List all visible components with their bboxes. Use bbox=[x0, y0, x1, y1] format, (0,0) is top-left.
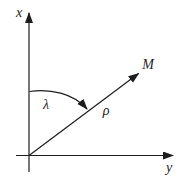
rho-radius-label: ρ bbox=[102, 103, 110, 118]
angle-arc-arrow bbox=[30, 91, 88, 109]
x-axis-label: x bbox=[15, 5, 23, 20]
point-m-label: M bbox=[141, 57, 155, 72]
diagram-canvas: x y M λ ρ bbox=[0, 0, 183, 180]
vector-om-line bbox=[29, 74, 139, 156]
lambda-angle-label: λ bbox=[42, 97, 49, 112]
coordinate-diagram: x y M λ ρ bbox=[0, 0, 183, 180]
y-axis-label: y bbox=[164, 160, 173, 175]
